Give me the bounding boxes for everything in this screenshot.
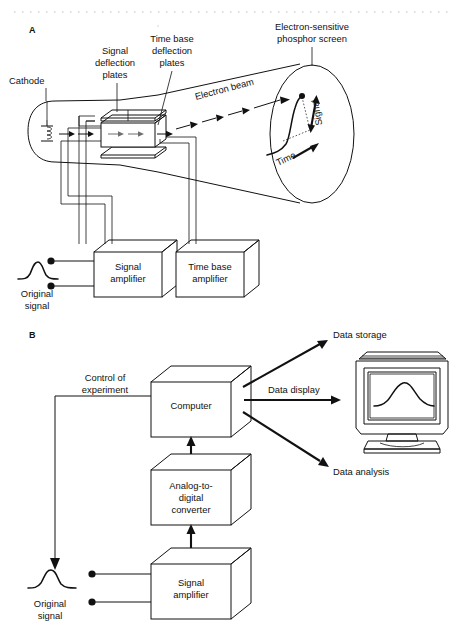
data-display-label: Data display — [268, 384, 320, 395]
time-base-amplifier-box: Time base amplifier — [176, 240, 259, 297]
panel-a: A Cathode — [9, 21, 354, 311]
panel-b-signal-amplifier-label-line1: Signal — [178, 577, 204, 588]
data-display-arrow — [244, 396, 341, 405]
adc-label-line1: Analog-to- — [169, 480, 212, 491]
cathode-label: Cathode — [9, 75, 44, 86]
panel-a-original-signal-label-line2: signal — [25, 300, 50, 311]
time-base-amplifier-label-line2: amplifier — [192, 273, 227, 284]
panel-b-letter: B — [29, 330, 36, 340]
panel-b: B Computer Analog-to- digital converter — [28, 329, 448, 621]
beam-exit-arrowhead — [166, 131, 173, 137]
figure-root: A Cathode — [0, 0, 460, 643]
control-of-experiment-label-line2: experiment — [82, 384, 129, 395]
time-base-deflection-plates-label-line3: plates — [159, 57, 184, 68]
deflection-plate-assembly — [101, 110, 173, 158]
analog-to-digital-converter-box: Analog-to- digital converter — [151, 454, 251, 525]
signal-deflection-plates-label-line3: plates — [102, 69, 127, 80]
computer-label: Computer — [170, 400, 211, 411]
data-storage-label: Data storage — [333, 329, 387, 340]
electrode-dot-top — [47, 257, 54, 264]
computer-box: Computer — [151, 366, 251, 437]
control-of-experiment-label-line1: Control of — [85, 372, 126, 383]
control-of-experiment-arrow — [50, 396, 151, 570]
cathode-filament — [41, 120, 53, 141]
figure-canvas: A Cathode — [0, 0, 460, 643]
panel-b-original-signal-label-line1: Original — [34, 598, 66, 609]
electron-beam-label: Electron beam — [194, 76, 255, 102]
time-base-deflection-plates-label-line2: deflection — [152, 45, 192, 56]
beam-arrows-neck — [59, 131, 94, 137]
panel-b-original-signal: Original signal — [28, 570, 151, 621]
signal-amplifier-label-line2: amplifier — [110, 273, 145, 284]
panel-b-signal-amplifier-label-line2: amplifier — [173, 589, 208, 600]
crt-monitor — [356, 352, 448, 453]
time-base-amplifier-label-line1: Time base — [188, 261, 231, 272]
panel-a-original-signal-label-line1: Original — [21, 288, 53, 299]
monitor-screen-trace — [374, 383, 434, 406]
screen-time-dashed — [283, 130, 310, 141]
signal-deflection-plates-label-line1: Signal — [102, 45, 128, 56]
scan-artifact-speck — [157, 25, 158, 26]
electron-beam: Electron beam — [176, 76, 290, 129]
data-analysis-label: Data analysis — [333, 466, 390, 477]
panel-b-original-signal-waveform — [28, 570, 76, 588]
data-storage-arrow — [243, 340, 328, 387]
screen-signal-trace — [267, 97, 301, 155]
screen-trace-group: Signal Time — [267, 93, 324, 168]
panel-b-electrode-dot-top — [88, 570, 95, 577]
signal-amplifier-label-line1: Signal — [115, 261, 141, 272]
adc-label-line3: converter — [171, 504, 210, 515]
original-signal-waveform — [18, 262, 58, 279]
panel-a-original-signal: Original signal — [18, 257, 94, 311]
phosphor-screen — [270, 65, 354, 203]
screen-time-axis — [293, 143, 319, 158]
phosphor-screen-label-group: Electron-sensitive phosphor screen — [275, 21, 349, 66]
panel-b-electrode-dot-bottom — [88, 598, 95, 605]
signal-deflection-plates-label-group: Signal deflection plates — [95, 45, 135, 112]
panel-a-letter: A — [29, 25, 36, 35]
panel-b-original-signal-label-line2: signal — [38, 610, 63, 621]
time-base-deflection-plates-label-line1: Time base — [150, 33, 193, 44]
adc-label-line2: digital — [179, 492, 204, 503]
signal-amplifier-box: Signal amplifier — [94, 240, 177, 297]
phosphor-screen-label-line2: phosphor screen — [277, 33, 347, 44]
signal-deflection-plates-label-line2: deflection — [95, 57, 135, 68]
data-analysis-arrow — [243, 412, 329, 467]
phosphor-screen-label-line1: Electron-sensitive — [275, 21, 349, 32]
panel-b-signal-amplifier-box: Signal amplifier — [151, 548, 251, 619]
